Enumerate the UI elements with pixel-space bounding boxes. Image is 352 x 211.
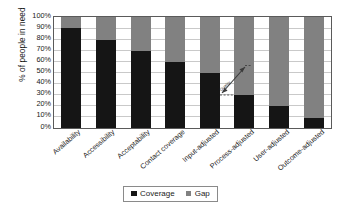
bar-segment-gap [304, 17, 324, 118]
stacked-bar-chart: % of people in need 100%90%80%70%60%50%4… [0, 0, 352, 211]
stacked-bar [200, 17, 220, 128]
bar-segment-gap [234, 17, 254, 96]
bar-segment-coverage [131, 51, 151, 128]
legend-item-gap: Gap [186, 189, 210, 198]
x-axis-tick-label-text: Availability [51, 128, 82, 156]
bar-slot [193, 17, 228, 128]
legend-swatch-coverage [131, 191, 137, 197]
y-axis-tick-label: 70% [36, 45, 51, 52]
legend-label-coverage: Coverage [140, 189, 175, 198]
stacked-bar [131, 17, 151, 128]
stacked-bar [165, 17, 185, 128]
stacked-bar [269, 17, 289, 128]
y-axis-tick-label: 10% [36, 111, 51, 118]
chart-legend: Coverage Gap [123, 186, 218, 202]
y-axis-tick-label: 90% [36, 23, 51, 30]
y-axis-tick-label: 100% [32, 12, 51, 19]
bar-segment-gap [269, 17, 289, 107]
bar-slot [123, 17, 158, 128]
bar-segment-coverage [165, 62, 185, 127]
bar-segment-gap [96, 17, 116, 40]
y-axis-tick-label: 50% [36, 67, 51, 74]
x-axis-tick-label-text: Accessibility [82, 128, 117, 160]
y-axis-tick-labels: 100%90%80%70%60%50%40%30%20%10%0% [18, 13, 51, 128]
legend-label-gap: Gap [195, 189, 210, 198]
bar-slot [227, 17, 262, 128]
bar-series-container [54, 17, 331, 128]
y-axis-tick-label: 20% [36, 100, 51, 107]
bar-slot [262, 17, 297, 128]
stacked-bar [96, 17, 116, 128]
stacked-bar [304, 17, 324, 128]
bar-slot [158, 17, 193, 128]
y-axis-tick-label: 30% [36, 89, 51, 96]
bar-slot [296, 17, 331, 128]
plot-area [53, 16, 332, 129]
bar-segment-gap [61, 17, 81, 28]
bar-segment-coverage [200, 73, 220, 127]
y-axis-tick-label: 0% [40, 123, 51, 130]
bar-segment-coverage [269, 106, 289, 127]
bar-segment-coverage [96, 40, 116, 128]
y-axis-tick-label: 40% [36, 78, 51, 85]
stacked-bar [61, 17, 81, 128]
legend-item-coverage: Coverage [131, 189, 175, 198]
bar-segment-coverage [304, 118, 324, 128]
bar-segment-coverage [234, 95, 254, 127]
bar-slot [89, 17, 124, 128]
x-axis-tick-labels: AvailabilityAccessibilityAcceptabilityCo… [53, 128, 332, 183]
y-axis-tick-label: 80% [36, 34, 51, 41]
bar-segment-gap [131, 17, 151, 51]
bar-slot [54, 17, 89, 128]
legend-swatch-gap [186, 191, 192, 197]
bar-segment-coverage [61, 28, 81, 128]
stacked-bar [234, 17, 254, 128]
bar-segment-gap [165, 17, 185, 63]
bar-segment-gap [200, 17, 220, 74]
y-axis-tick-label: 60% [36, 56, 51, 63]
